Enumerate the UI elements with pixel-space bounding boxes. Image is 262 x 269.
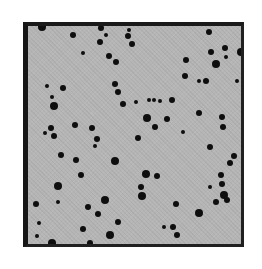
particle <box>218 172 224 178</box>
particle <box>33 201 39 207</box>
particle <box>183 57 189 63</box>
particle <box>95 211 101 217</box>
particle <box>111 157 119 165</box>
particle <box>101 196 109 204</box>
particle <box>158 99 162 103</box>
particle <box>113 59 119 65</box>
particle <box>235 79 239 83</box>
particle <box>73 157 79 163</box>
particle <box>78 172 84 178</box>
particle <box>115 89 121 95</box>
particle-layer <box>0 0 262 269</box>
particle <box>104 33 108 37</box>
particle <box>43 131 47 135</box>
particle <box>152 98 156 102</box>
particle <box>197 79 201 83</box>
particle <box>87 240 93 246</box>
particle <box>48 125 54 131</box>
particle <box>219 181 225 187</box>
particle <box>138 192 146 200</box>
particle <box>173 201 179 207</box>
particle <box>208 185 212 189</box>
particle <box>94 136 100 142</box>
particle <box>152 124 158 130</box>
particle <box>127 28 131 32</box>
particle <box>45 84 49 88</box>
particle <box>169 97 175 103</box>
particle <box>224 197 230 203</box>
particle <box>112 81 118 87</box>
particle <box>106 231 114 239</box>
particle <box>237 48 245 56</box>
particle <box>196 110 202 116</box>
particle <box>97 39 103 45</box>
particle <box>222 45 228 51</box>
particle <box>227 160 233 166</box>
particle <box>70 32 76 38</box>
particle <box>231 153 237 159</box>
particle <box>93 144 97 148</box>
particle <box>174 232 180 238</box>
particle <box>182 73 188 79</box>
particle <box>85 204 91 210</box>
particle <box>142 170 150 178</box>
particle <box>220 124 226 130</box>
particle <box>164 116 170 122</box>
particle <box>138 184 144 190</box>
particle <box>50 102 58 110</box>
particle <box>37 221 41 225</box>
particle <box>106 53 112 59</box>
particle <box>134 100 138 104</box>
particle <box>35 234 39 238</box>
particle <box>147 98 151 102</box>
particle <box>72 122 78 128</box>
particle <box>162 225 166 229</box>
particle <box>60 85 66 91</box>
particle <box>120 101 126 107</box>
particle <box>115 219 121 225</box>
particle <box>89 125 95 131</box>
particle <box>181 130 185 134</box>
particle <box>51 133 57 139</box>
particle <box>224 55 228 59</box>
particle <box>203 78 209 84</box>
particle <box>50 95 54 99</box>
particle <box>213 199 219 205</box>
particle <box>208 49 214 55</box>
particle <box>58 152 64 158</box>
particle <box>48 239 56 247</box>
particle <box>143 114 151 122</box>
particle <box>170 224 176 230</box>
particle <box>56 200 60 204</box>
particle <box>54 182 62 190</box>
particle <box>80 226 86 232</box>
particle <box>154 173 160 179</box>
particle <box>207 144 213 150</box>
particle <box>135 135 141 141</box>
particle <box>206 29 212 35</box>
particle <box>212 60 220 68</box>
particle <box>129 41 135 47</box>
particle <box>219 114 225 120</box>
particle <box>195 209 203 217</box>
particle <box>125 33 131 39</box>
particle <box>98 25 104 31</box>
particle <box>81 51 85 55</box>
particle <box>38 23 46 31</box>
